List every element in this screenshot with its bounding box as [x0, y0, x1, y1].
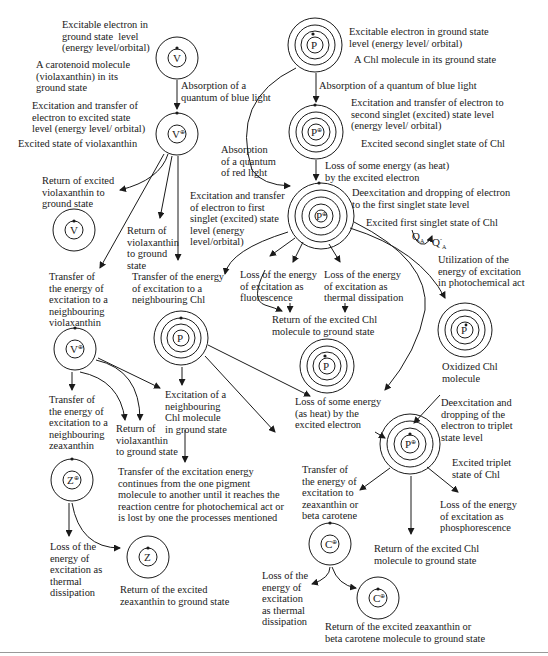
molecule-v-glyph: V	[173, 52, 181, 64]
label-p-ground-electron: Excitable electron in ground state level…	[349, 26, 489, 49]
label-p-excitation-first: Excitation and transfer of electron to f…	[190, 190, 285, 248]
svg-text:P: P	[177, 332, 183, 344]
label-p-loss-heat-1: Loss of some energy (as heat) by the exc…	[325, 160, 449, 183]
svg-text:Z: Z	[144, 551, 151, 563]
label-p-excited-second: Excited second singlet state of Chl	[361, 138, 505, 150]
label-excitation-neighbour-chl: Excitation of a neighbouring Chl molecul…	[165, 389, 227, 435]
label-v-excitation: Excitation and transfer of electron to e…	[32, 100, 145, 135]
label-utilization: Utilization of the energy of excitation …	[438, 254, 525, 289]
label-p-excitation-second: Excitation and transfer of electron to s…	[351, 97, 504, 132]
label-c-loss-thermal: Loss of the energy of excitation as ther…	[262, 570, 308, 628]
label-p-ground-molecule: A Chl molecule in its ground state	[354, 54, 496, 66]
label-return-chl-2: Return of the excited Chl molecule to gr…	[374, 543, 479, 566]
label-return-chl-1: Return of the excited Chl molecule to gr…	[272, 314, 377, 337]
label-thermal: Loss of the energy of excitation as ther…	[324, 269, 403, 304]
label-c-return: Return of the excited zeaxanthin or beta…	[325, 621, 485, 644]
label-p-absorption-blue: Absorption of a quantum of blue light	[319, 80, 477, 92]
label-p-absorption-red: Absorption of a quantum of red light	[221, 144, 276, 179]
svg-text:V⊕: V⊕	[70, 343, 83, 355]
label-p-deexcitation-first: Deexcitation and dropping of electron to…	[352, 187, 510, 210]
svg-text:P⊕: P⊕	[405, 438, 416, 450]
label-transfer-zea-beta: Transfer of the energy of excitation to …	[302, 464, 358, 522]
svg-text:V: V	[70, 224, 78, 236]
bottom-divider	[0, 652, 548, 653]
svg-text:C⊕: C⊕	[373, 592, 385, 604]
label-phosphorescence: Loss of the energy of excitation as phos…	[440, 499, 517, 534]
svg-text:Z⊕: Z⊕	[67, 474, 79, 486]
label-v-return-excited: Return of excited violaxanthin to ground…	[42, 175, 114, 210]
label-v-absorption: Absorption of a quantum of blue light	[181, 80, 271, 103]
label-v-ground-molecule: A carotenoid molecule (violaxanthin) in …	[36, 59, 130, 94]
svg-text:C⊕: C⊕	[325, 538, 337, 550]
label-v-return-ground: Return of violaxanthin to ground state	[127, 225, 179, 271]
svg-text:P: P	[323, 360, 329, 372]
svg-text:P: P	[461, 324, 467, 336]
label-fluorescence: Loss of the energy of excitation as fluo…	[240, 269, 317, 304]
svg-text:P: P	[311, 39, 317, 51]
label-excited-triplet: Excited triplet state of Chl	[452, 457, 511, 480]
label-transfer-chl: Transfer of the energy of excitation to …	[132, 271, 224, 306]
label-v-excited-state: Excited state of violaxanthin	[18, 138, 137, 150]
label-transfer-continues: Transfer of the excitation energy contin…	[118, 466, 284, 524]
label-transfer-zeaxanthin: Transfer of the energy of excitation to …	[49, 394, 108, 452]
label-oxidized: Oxidized Chl molecule	[442, 361, 498, 384]
label-deexcitation-triplet: Deexcitation and dropping of the electro…	[441, 397, 513, 443]
label-loss-heat-2: Loss of some energy (as heat) by the exc…	[295, 396, 381, 431]
label-v-ground-electron: Excitable electron in ground state level…	[62, 19, 150, 54]
label-z-loss-thermal: Loss of the energy of excitation as ther…	[50, 541, 102, 599]
qa-label: QA	[412, 230, 425, 244]
qa-reduced-label: Q-A	[432, 236, 447, 250]
label-p-excited-first: Excited first singlet state of Chl	[366, 217, 498, 229]
label-transfer-violaxanthin: Transfer of the energy of excitation to …	[49, 271, 108, 329]
svg-text:V⊕: V⊕	[172, 128, 185, 140]
label-z-return: Return of the excited zeaxanthin to grou…	[120, 584, 229, 607]
svg-text:P⊕: P⊕	[311, 126, 322, 138]
